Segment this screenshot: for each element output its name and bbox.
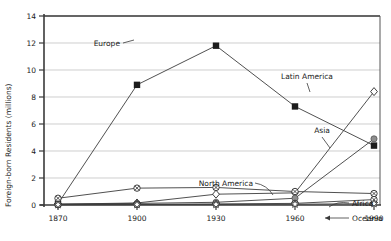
y-axis-tick-labels: 14 12 10 8 6 4 2 0 [26, 12, 36, 210]
x-tick-1900: 1900 [127, 214, 146, 223]
marker-europe-1900 [134, 82, 140, 88]
marker-north-america-1900 [134, 185, 140, 191]
y-tick-4: 4 [31, 147, 36, 156]
y-axis-title: Foreign-born Residents (millions) [4, 83, 13, 207]
y-tick-10: 10 [26, 66, 36, 75]
chart-container: Foreign-born Residents (millions) 14 12 … [0, 0, 391, 241]
marker-europe-1990 [371, 142, 377, 148]
marker-latin-america-1930 [213, 190, 220, 198]
label-europe: Europe [94, 39, 121, 48]
y-tick-14: 14 [26, 12, 36, 21]
label-africa: Africa [352, 199, 373, 208]
label-latin-america: Latin America [281, 72, 333, 81]
x-tick-1870: 1870 [48, 214, 67, 223]
y-tick-8: 8 [31, 93, 36, 102]
marker-north-america-1990 [371, 190, 377, 196]
label-asia: Asia [314, 126, 330, 135]
x-tick-1960: 1960 [285, 214, 304, 223]
y-tick-0: 0 [31, 201, 36, 210]
x-axis-tick-labels: 1870 1900 1930 1960 1990 [48, 214, 383, 223]
marker-europe-1960 [292, 103, 298, 109]
label-oceania: Oceania [352, 214, 383, 223]
label-north-america: North America [199, 179, 253, 188]
x-tick-1930: 1930 [206, 214, 225, 223]
y-tick-6: 6 [31, 120, 36, 129]
marker-asia-1990 [371, 136, 377, 142]
marker-europe-1930 [213, 43, 219, 49]
series-annotations: Europe Latin America Asia North America … [94, 39, 383, 223]
y-tick-12: 12 [26, 39, 36, 48]
line-chart: Foreign-born Residents (millions) 14 12 … [0, 0, 391, 241]
y-tick-2: 2 [31, 174, 36, 183]
marker-north-america-1960 [292, 188, 298, 194]
